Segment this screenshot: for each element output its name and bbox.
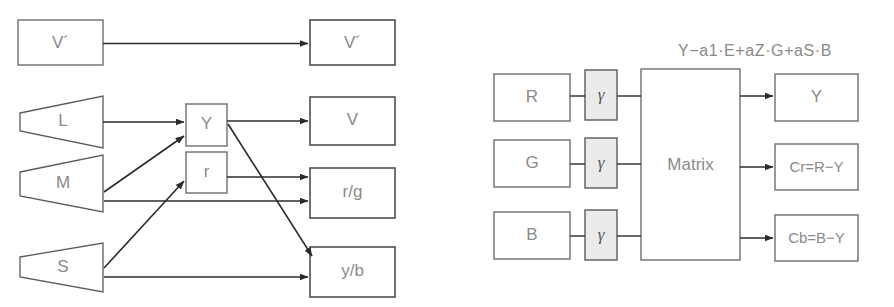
node-out-yb[interactable]: y/b — [310, 247, 395, 297]
node-out-cr[interactable]: Cr=R−Y — [775, 144, 858, 190]
node-gamma-r[interactable]: γ — [585, 70, 617, 120]
node-vprime-out[interactable]: V´ — [310, 20, 395, 65]
block-diagram: V´ V´ L M S — [0, 0, 894, 307]
node-in-r[interactable]: R — [494, 74, 570, 121]
edge-m-to-y — [104, 136, 184, 192]
node-in-g-label: G — [525, 153, 538, 172]
node-y[interactable]: Y — [186, 104, 227, 146]
node-vprime-out-label: V´ — [344, 33, 361, 52]
node-matrix-label: Matrix — [667, 155, 714, 174]
node-out-y-label: Y — [811, 87, 822, 106]
node-in-b[interactable]: B — [494, 212, 570, 259]
node-in-g[interactable]: G — [494, 140, 570, 187]
node-r[interactable]: r — [186, 152, 227, 193]
node-out-rg[interactable]: r/g — [310, 168, 395, 218]
node-vprime-in-label: V´ — [52, 33, 69, 52]
node-out-cb-label: Cb=B−Y — [788, 229, 845, 246]
node-out-cb[interactable]: Cb=B−Y — [775, 215, 858, 261]
matrix-formula-label: Y−a1·E+aZ·G+aS·B — [678, 42, 832, 59]
right-panel: Y−a1·E+aZ·G+aS·B R G B γ — [494, 42, 858, 261]
node-cone-l-label: L — [58, 111, 67, 130]
node-out-cr-label: Cr=R−Y — [789, 158, 843, 175]
left-panel: V´ V´ L M S — [18, 20, 395, 297]
node-matrix[interactable]: Matrix — [641, 69, 740, 260]
node-cone-s-label: S — [57, 257, 68, 276]
node-y-label: Y — [201, 114, 212, 133]
node-vprime-in[interactable]: V´ — [18, 20, 103, 65]
node-out-yb-label: y/b — [341, 261, 364, 280]
node-r-label: r — [204, 162, 210, 181]
node-cone-m-label: M — [56, 173, 70, 192]
node-in-b-label: B — [526, 225, 537, 244]
node-out-y[interactable]: Y — [775, 74, 858, 121]
node-gamma-g[interactable]: γ — [585, 138, 617, 188]
node-in-r-label: R — [526, 87, 538, 106]
node-cone-s[interactable]: S — [20, 243, 103, 292]
node-out-v-label: V — [347, 110, 359, 129]
node-out-rg-label: r/g — [343, 182, 363, 201]
node-out-v[interactable]: V — [310, 97, 395, 145]
edge-y-to-yb — [228, 124, 312, 256]
node-gamma-b[interactable]: γ — [585, 210, 617, 260]
node-cone-m[interactable]: M — [20, 155, 103, 212]
node-cone-l[interactable]: L — [20, 96, 103, 148]
edge-s-to-r — [104, 181, 184, 268]
diagram-canvas: V´ V´ L M S — [0, 0, 894, 307]
